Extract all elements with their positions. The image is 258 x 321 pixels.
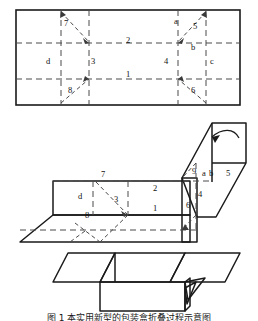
folded-label-3: 3 bbox=[114, 195, 118, 204]
blank-label-a: a bbox=[174, 17, 178, 26]
arrowhead-6 bbox=[178, 76, 184, 82]
assembled-box-view bbox=[0, 238, 258, 318]
arrowhead-7b bbox=[60, 11, 66, 18]
flat-blank-view bbox=[0, 0, 258, 120]
folded-label-2: 2 bbox=[153, 184, 157, 193]
blank-label-d: d bbox=[46, 57, 50, 66]
box-top-rim bbox=[100, 253, 185, 282]
folded-label-8: 8 bbox=[85, 211, 89, 220]
figure-container: 7 a 5 2 b d 3 4 c 1 8 6 7 9 a b 5 d 2 3 … bbox=[0, 0, 258, 321]
folded-label-6: 6 bbox=[186, 201, 190, 210]
folded-label-a: a bbox=[202, 169, 206, 178]
folded-label-d: d bbox=[78, 192, 82, 201]
folded-label-9: 9 bbox=[192, 167, 196, 176]
folded-label-b: b bbox=[209, 169, 213, 178]
folded-label-4: 4 bbox=[198, 190, 202, 199]
folded-label-1: 1 bbox=[153, 204, 157, 213]
blank-label-c: c bbox=[210, 57, 214, 66]
blank-label-7: 7 bbox=[64, 19, 68, 28]
figure-caption: 图 1 本实用新型的包装盒折叠过程示意图 bbox=[0, 311, 258, 321]
blank-label-3: 3 bbox=[91, 57, 95, 66]
diag-crease-5 bbox=[178, 12, 206, 42]
left-flap bbox=[53, 253, 115, 282]
folded-label-5: 5 bbox=[226, 169, 230, 178]
blank-label-5: 5 bbox=[193, 22, 197, 31]
blank-label-b: b bbox=[191, 43, 195, 52]
arrowhead-5b bbox=[201, 11, 207, 18]
back-wall bbox=[53, 181, 190, 215]
blank-label-6: 6 bbox=[191, 86, 195, 95]
blank-label-4: 4 bbox=[164, 57, 168, 66]
diag-crease-8 bbox=[61, 79, 89, 103]
diag-fold-7 bbox=[96, 182, 128, 215]
blank-label-2: 2 bbox=[126, 36, 130, 45]
arrowhead-fold-6 bbox=[182, 224, 189, 230]
blank-label-1: 1 bbox=[126, 70, 130, 79]
blank-label-8: 8 bbox=[68, 86, 72, 95]
partially-folded-view bbox=[0, 118, 258, 243]
arrowhead-8 bbox=[83, 76, 89, 82]
box-front-face bbox=[100, 282, 185, 311]
folded-label-7: 7 bbox=[101, 170, 105, 179]
